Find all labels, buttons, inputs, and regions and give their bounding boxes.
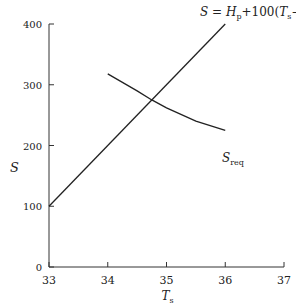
y-tick-label: 100 xyxy=(23,201,42,212)
series-line-0 xyxy=(49,24,225,206)
x-tick-label: 34 xyxy=(101,274,115,287)
y-tick-label: 400 xyxy=(23,19,42,30)
x-tick-label: 37 xyxy=(277,274,291,287)
y-tick-label: 0 xyxy=(36,262,42,273)
equation-label: S = Hp+100(Ts−34.0) xyxy=(200,5,296,21)
sreq-label: Sreq xyxy=(222,151,244,167)
y-tick-label: 200 xyxy=(23,141,42,152)
x-tick-label: 35 xyxy=(160,274,174,287)
x-axis-label: Ts xyxy=(162,289,174,305)
x-tick-label: 33 xyxy=(42,274,56,287)
chart: 33343536370100200300400S = Hp+100(Ts−34.… xyxy=(0,0,296,306)
series-line-1 xyxy=(108,74,226,130)
plot-area: 33343536370100200300400S = Hp+100(Ts−34.… xyxy=(0,0,296,306)
x-tick-label: 36 xyxy=(218,274,232,287)
y-tick-label: 300 xyxy=(23,80,42,91)
y-axis-label: S xyxy=(10,160,19,175)
